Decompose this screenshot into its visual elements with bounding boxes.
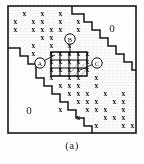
zero-top-right: 0 (109, 22, 115, 34)
label-b-text: B (68, 36, 73, 43)
matrix-entry-x: x (104, 113, 108, 122)
matrix-entry-x: x (23, 9, 27, 18)
matrix-entry-x: x (59, 105, 63, 114)
label-a: A (35, 58, 45, 68)
matrix-entry-x: x (122, 121, 126, 130)
matrix-entry-x: x (104, 89, 108, 98)
matrix-entry-x: x (68, 89, 72, 98)
matrix-entry-x: x (113, 97, 117, 106)
matrix-entry-x: x (32, 25, 36, 34)
label-c-text: C (95, 60, 100, 67)
matrix-entry-x: x (95, 121, 99, 130)
zero-bottom-left: 0 (26, 104, 32, 116)
matrix-entry-x: x (113, 113, 117, 122)
figure-caption: (a) (0, 139, 144, 151)
matrix-entry-x: x (131, 121, 135, 130)
matrix-entry-x: x (59, 25, 63, 34)
matrix-entry-x: x (41, 33, 45, 42)
figure-container: xxxxxxxxxxxxxxxxxxxxxxxxxxxxxxxxxxxxxxxx… (0, 0, 144, 164)
label-a-text: A (38, 60, 43, 67)
matrix-entry-x: x (77, 113, 81, 122)
matrix-entry-x: x (77, 25, 81, 34)
matrix-entry-x: x (95, 81, 99, 90)
matrix-entry-x: x (59, 65, 63, 74)
matrix-entry-x: x (95, 105, 99, 114)
matrix-entry-x: x (59, 81, 63, 90)
matrix-entry-x: x (77, 97, 81, 106)
label-c: C (92, 58, 102, 68)
matrix-entry-x: x (86, 105, 90, 114)
matrix-entry-x: x (14, 25, 18, 34)
label-b: B (65, 34, 75, 44)
matrix-entry-x: x (32, 49, 36, 58)
